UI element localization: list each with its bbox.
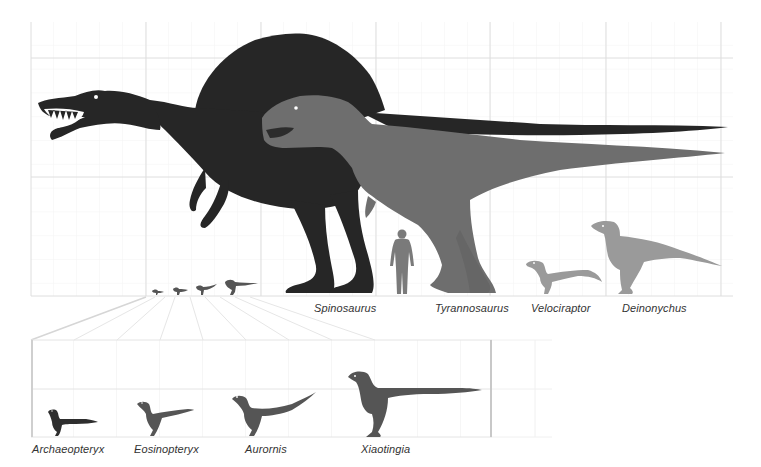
label-deinonychus: Deinonychus [622,302,687,314]
label-eosinopteryx: Eosinopteryx [134,443,199,455]
figure-graphics [0,0,761,467]
label-aurornis: Aurornis [245,443,287,455]
label-xiaotingia: Xiaotingia [361,443,410,455]
inset-grid [31,340,552,437]
label-tyrannosaurus: Tyrannosaurus [435,302,509,314]
label-spinosaurus: Spinosaurus [314,302,376,314]
size-comparison-figure: Spinosaurus Tyrannosaurus Velociraptor D… [0,0,761,467]
label-archaeopteryx: Archaeopteryx [32,443,104,455]
label-velociraptor: Velociraptor [531,302,591,314]
